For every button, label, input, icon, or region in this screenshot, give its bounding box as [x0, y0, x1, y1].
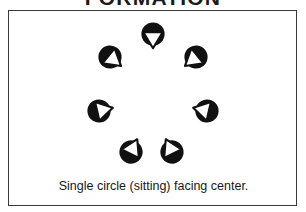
diagram-panel: Single circle (sitting) facing center.: [8, 10, 297, 206]
formation-diagram-page: FORMATION Single circle (sitting) facing…: [0, 0, 306, 212]
person-right: [190, 94, 224, 128]
person-upper-left: [93, 40, 127, 74]
person-top: [136, 17, 170, 51]
person-lower-right: [155, 135, 189, 169]
formation-stage: [9, 11, 298, 166]
page-title: FORMATION: [0, 0, 306, 9]
formation-caption: Single circle (sitting) facing center.: [9, 179, 298, 193]
person-left: [82, 94, 116, 128]
person-upper-right: [179, 40, 213, 74]
person-lower-left: [114, 135, 148, 169]
